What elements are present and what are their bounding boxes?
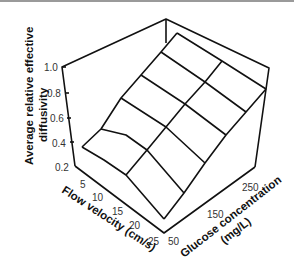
z-tick: 0.2 [55,162,69,173]
y-tick: 50 [168,236,180,247]
z-tick: 1.0 [44,62,58,73]
z-tick: 0.6 [50,113,64,124]
z-tick: 0.8 [47,88,61,99]
svg-text:Glucose concentration: Glucose concentration [178,173,284,259]
z-axis-label: Average relative effective diffusivity [23,27,49,165]
z-tick: 0.4 [52,138,66,149]
svg-text:diffusivity: diffusivity [37,87,49,142]
y-axis-label: Glucose concentration (mg/L) [178,173,292,270]
x-tick: 5 [80,179,86,190]
svg-text:Average relative effective: Average relative effective [23,27,35,165]
surface-plot: 1.0 0.8 0.6 0.4 0.2 5 10 15 20 25 50 150… [0,0,294,278]
